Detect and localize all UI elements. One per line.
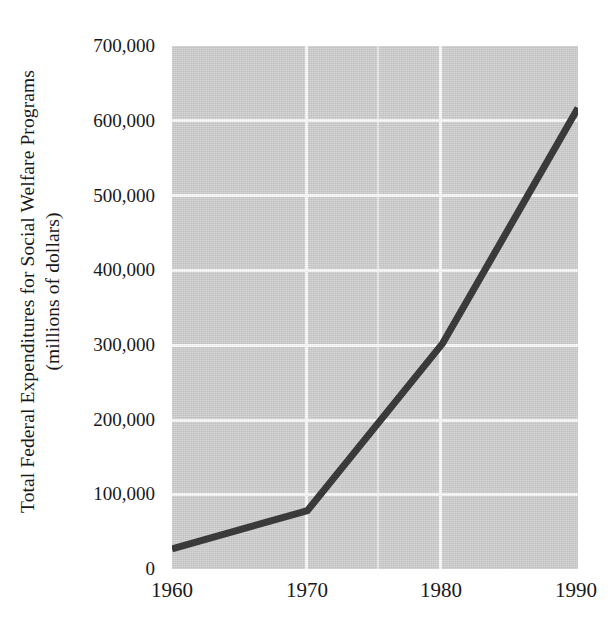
series-line-chart (172, 46, 578, 569)
y-tick-200000: 200,000 (93, 409, 155, 431)
y-tick-700000: 700,000 (93, 35, 155, 57)
y-tick-500000: 500,000 (93, 185, 155, 207)
y-tick-300000: 300,000 (93, 334, 155, 356)
x-tick-1990: 1990 (555, 578, 597, 603)
x-tick-1960: 1960 (151, 578, 193, 603)
plot-area (172, 46, 578, 569)
x-axis-tick-labels: 1960 1970 1980 1990 (0, 578, 614, 618)
y-tick-400000: 400,000 (93, 259, 155, 281)
y-tick-100000: 100,000 (93, 483, 155, 505)
x-tick-1980: 1980 (420, 578, 462, 603)
y-tick-0: 0 (146, 558, 156, 580)
chart-figure: Total Federal Expenditures for Social We… (0, 0, 614, 641)
x-tick-1970: 1970 (286, 578, 328, 603)
y-axis-title-line-2: (millions of dollars) (40, 212, 65, 370)
y-tick-600000: 600,000 (93, 110, 155, 132)
y-axis-title-line-1: Total Federal Expenditures for Social We… (15, 70, 40, 513)
series-polyline-federal-expenditures (172, 108, 578, 549)
y-axis-tick-labels: 700,000 600,000 500,000 400,000 300,000 … (0, 0, 163, 641)
y-axis-title: Total Federal Expenditures for Social We… (0, 0, 80, 583)
